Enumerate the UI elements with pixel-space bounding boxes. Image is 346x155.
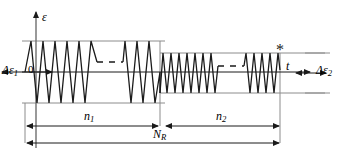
failure-marker-icon: * bbox=[276, 41, 284, 58]
svg-text:*: * bbox=[276, 41, 284, 58]
n2-label: n2 bbox=[216, 110, 226, 124]
n1-label: n1 bbox=[84, 110, 94, 124]
x-axis-label: t bbox=[286, 60, 289, 72]
y-axis-label: ε bbox=[42, 11, 47, 23]
origin-label: 0 bbox=[28, 64, 34, 75]
loading-history-diagram: * ε 0 t Δε1 Δε2 n1 n2 NR bbox=[0, 0, 346, 155]
delta-eps-1-label: Δε1 bbox=[2, 64, 18, 78]
nr-label: NR bbox=[153, 128, 166, 142]
diagram-canvas: * bbox=[0, 0, 346, 155]
waveform-block-2 bbox=[160, 53, 280, 93]
delta-eps-2-label: Δε2 bbox=[316, 64, 332, 78]
